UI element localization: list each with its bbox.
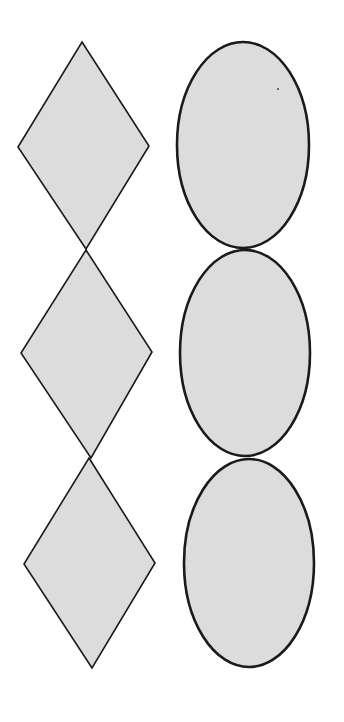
speck-mark (277, 88, 279, 90)
oval-shape-2 (180, 250, 310, 456)
oval-shape-3 (184, 459, 314, 667)
diamond-shape-3 (24, 458, 155, 668)
diamond-column (18, 42, 155, 668)
diamond-shape-2 (21, 250, 152, 458)
shapes-diagram (0, 0, 344, 722)
diamond-shape-1 (18, 42, 149, 249)
oval-column (177, 42, 314, 667)
oval-shape-1 (177, 42, 309, 248)
